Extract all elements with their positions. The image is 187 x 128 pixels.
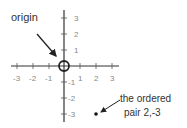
- plotted-point: [94, 112, 98, 116]
- y-tick-label: 2: [74, 30, 79, 39]
- y-tick-label: -1: [68, 78, 76, 87]
- coordinate-plane: -3 -2 -1 1 2 3 3 2 1 -1 -2 -3 origin the…: [0, 0, 187, 128]
- y-tick-label: 1: [74, 46, 79, 55]
- point-label-line1: the ordered: [120, 93, 171, 104]
- point-label-line2: pair 2,-3: [124, 107, 161, 118]
- y-tick-label: -2: [68, 94, 76, 103]
- origin-label: origin: [11, 11, 38, 23]
- x-tick-label: 3: [110, 74, 115, 83]
- y-tick-label: -3: [68, 110, 76, 119]
- x-tick-label: -1: [45, 74, 53, 83]
- x-tick-label: 1: [78, 74, 83, 83]
- point-arrow-icon: [101, 100, 120, 112]
- x-tick-label: -2: [29, 74, 37, 83]
- y-tick-label: 3: [74, 14, 79, 23]
- origin-arrow-icon: [37, 34, 56, 56]
- x-tick-label: -3: [13, 74, 21, 83]
- x-tick-label: 2: [94, 74, 99, 83]
